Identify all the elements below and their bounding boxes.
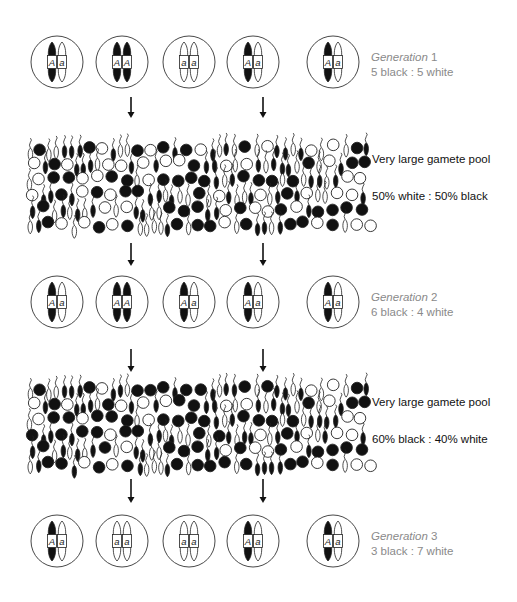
egg-white bbox=[305, 145, 317, 157]
sperm-black bbox=[129, 401, 134, 414]
sperm-black bbox=[283, 147, 288, 160]
egg-black bbox=[63, 172, 75, 184]
individual-cell-Aa: Aa bbox=[307, 36, 359, 88]
egg-black bbox=[238, 410, 250, 422]
sperm-black bbox=[165, 464, 170, 477]
egg-white bbox=[137, 397, 149, 409]
allele-letter: A bbox=[324, 57, 331, 68]
egg-white bbox=[143, 414, 155, 426]
sperm-white bbox=[264, 400, 269, 413]
egg-white bbox=[311, 217, 323, 229]
allele-letter: a bbox=[191, 536, 196, 547]
sperm-black bbox=[307, 205, 312, 218]
sperm-black bbox=[62, 385, 67, 398]
egg-black bbox=[281, 428, 293, 440]
egg-black bbox=[42, 216, 54, 228]
egg-white bbox=[213, 190, 225, 202]
allele-letter: a bbox=[181, 536, 186, 547]
egg-black bbox=[92, 410, 104, 422]
sperm-white bbox=[268, 193, 273, 206]
individual-cell-Aa: Aa bbox=[31, 276, 83, 328]
egg-black bbox=[49, 158, 61, 170]
egg-black bbox=[178, 445, 190, 457]
sperm-white bbox=[186, 462, 191, 475]
gamete-pool-2-title: Very large gamete pool bbox=[372, 395, 490, 410]
sperm-white bbox=[280, 414, 285, 427]
cell-outline bbox=[31, 276, 83, 328]
egg-white bbox=[262, 140, 274, 152]
sperm-black bbox=[262, 222, 267, 235]
generation-3-ratio: 3 black : 7 white bbox=[371, 545, 453, 557]
egg-white bbox=[220, 204, 232, 216]
egg-white bbox=[115, 160, 127, 172]
generation-1-word: Generation bbox=[371, 51, 428, 63]
egg-black bbox=[171, 218, 183, 230]
egg-white bbox=[346, 429, 358, 441]
egg-white bbox=[77, 412, 89, 424]
sperm-black bbox=[317, 175, 322, 188]
sperm-white bbox=[157, 447, 162, 460]
egg-black bbox=[346, 397, 358, 409]
sperm-white bbox=[316, 429, 321, 442]
sperm-black bbox=[256, 159, 261, 172]
generation-2-label: Generation 2 6 black : 4 white bbox=[371, 290, 453, 320]
sperm-white bbox=[319, 388, 324, 401]
sperm-black bbox=[78, 145, 83, 158]
sperm-white bbox=[152, 220, 157, 233]
cell-outline bbox=[227, 36, 279, 88]
egg-black bbox=[132, 185, 144, 197]
allele-letter: A bbox=[48, 536, 55, 547]
sperm-black bbox=[165, 224, 170, 237]
cell-outline bbox=[227, 276, 279, 328]
egg-black bbox=[56, 458, 68, 470]
egg-white bbox=[324, 155, 336, 167]
individual-cell-Aa: Aa bbox=[227, 36, 279, 88]
sperm-black bbox=[255, 223, 260, 236]
sperm-black bbox=[154, 399, 159, 412]
egg-white bbox=[121, 201, 133, 213]
sperm-white bbox=[269, 222, 274, 235]
sperm-black bbox=[214, 207, 219, 220]
egg-white bbox=[92, 170, 104, 182]
cell-outline bbox=[307, 515, 359, 567]
generation-2-number: 2 bbox=[431, 291, 437, 303]
sperm-white bbox=[222, 414, 227, 427]
egg-white bbox=[160, 155, 172, 167]
egg-white bbox=[220, 444, 232, 456]
individual-cell-Aa: Aa bbox=[307, 515, 359, 567]
egg-black bbox=[145, 384, 157, 396]
sperm-white bbox=[217, 384, 222, 397]
sperm-black bbox=[256, 399, 261, 412]
sperm-white bbox=[344, 384, 349, 397]
egg-black bbox=[106, 171, 118, 183]
allele-letter: a bbox=[114, 536, 119, 547]
sperm-black bbox=[111, 148, 116, 161]
generation-3-word: Generation bbox=[371, 530, 428, 542]
sperm-black bbox=[299, 388, 304, 401]
sperm-white bbox=[159, 462, 164, 475]
cell-outline bbox=[307, 36, 359, 88]
sperm-black bbox=[69, 146, 74, 159]
egg-black bbox=[281, 188, 293, 200]
allele-letter: A bbox=[48, 57, 55, 68]
egg-black bbox=[238, 170, 250, 182]
sperm-black bbox=[309, 415, 314, 428]
sperm-black bbox=[226, 431, 231, 444]
gamete-pool-1 bbox=[26, 133, 376, 239]
egg-white bbox=[173, 154, 185, 166]
egg-white bbox=[26, 189, 38, 201]
sperm-black bbox=[276, 191, 281, 204]
egg-black bbox=[346, 157, 358, 169]
generation-1-ratio: 5 black : 5 white bbox=[371, 66, 453, 78]
egg-black bbox=[204, 460, 216, 472]
allele-letter: a bbox=[59, 536, 64, 547]
sperm-black bbox=[269, 462, 274, 475]
egg-black bbox=[327, 459, 339, 471]
sperm-white bbox=[291, 383, 296, 396]
sperm-white bbox=[157, 207, 162, 220]
gamete-pool-1-title: Very large gamete pool bbox=[372, 152, 490, 167]
generation-1-number: 1 bbox=[431, 51, 437, 63]
sperm-white bbox=[72, 225, 77, 238]
egg-white bbox=[121, 441, 133, 453]
down-arrow-icon bbox=[260, 479, 267, 503]
